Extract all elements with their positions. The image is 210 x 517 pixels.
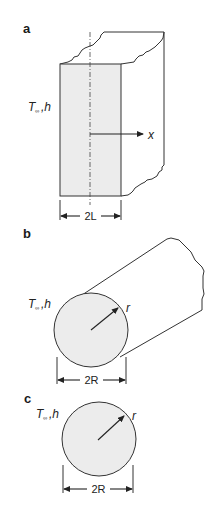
figure-canvas: a x T ∞ ,h 2L b [0, 0, 210, 517]
panel-b-label: b [23, 226, 31, 241]
slab-front-face [60, 64, 121, 196]
panel-a-slab: a x T ∞ ,h 2L [23, 21, 164, 222]
dimension-label: 2L [84, 210, 96, 222]
slab-bottom-jagged-edge [121, 167, 162, 196]
cylinder-bottom-edge [120, 310, 202, 357]
panel-b-boundary-label: T ∞ ,h [28, 297, 51, 311]
cylinder-top-edge [82, 239, 167, 295]
boundary-label-suffix: ,h [41, 297, 51, 311]
panel-b-cylinder: b r T ∞ ,h 2R [23, 226, 204, 386]
boundary-label-subscript: ∞ [35, 305, 39, 311]
boundary-label-suffix: ,h [41, 100, 51, 114]
panel-a-boundary-label: T ∞ ,h [28, 100, 51, 114]
slab-top-jagged-right-edge [121, 32, 164, 64]
panel-c-sphere: c r T ∞ ,h 2R [24, 391, 137, 495]
boundary-label-subscript: ∞ [43, 415, 47, 421]
panel-a-label: a [23, 21, 31, 36]
cylinder-radius-label: r [126, 301, 131, 315]
boundary-label-suffix: ,h [49, 407, 59, 421]
dimension-label: 2R [84, 374, 98, 386]
slab-back-right-edge [162, 32, 164, 167]
dimension-label: 2R [91, 483, 105, 495]
boundary-label-subscript: ∞ [35, 108, 39, 114]
sphere-radius-label: r [132, 409, 137, 423]
slab-top-jagged-left-edge [60, 32, 104, 64]
panel-c-boundary-label: T ∞ ,h [36, 407, 59, 421]
panel-c-label: c [24, 391, 31, 406]
dimension-2L: 2L [60, 200, 121, 222]
cylinder-broken-end [167, 238, 204, 310]
x-axis-label: x [147, 128, 155, 142]
